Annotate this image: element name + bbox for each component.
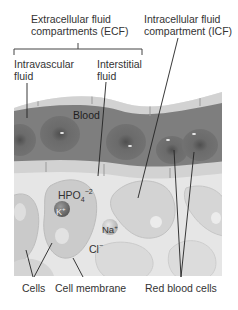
cell xyxy=(168,241,216,282)
cells-label: Cells xyxy=(22,282,45,294)
intravascular-fluid-label: Intravascular fluid xyxy=(14,58,74,82)
red-blood-cells-label: Red blood cells xyxy=(145,282,217,294)
ecf-label: Extracellular fluid compartments (ECF) xyxy=(31,13,128,37)
nucleus xyxy=(150,216,162,228)
k-ion-label: K+ xyxy=(56,203,66,218)
cell xyxy=(95,242,153,282)
nucleus xyxy=(55,228,69,244)
interstitial-fluid-label: Interstitial fluid xyxy=(97,58,142,82)
icf-label: Intracellular fluid compartment (ICF) xyxy=(144,13,232,37)
fluid-compartments-illustration xyxy=(0,0,238,310)
na-ion-label: Na+ xyxy=(102,221,118,236)
cl-ion-label: Cl− xyxy=(89,240,103,255)
cell-membrane-label: Cell membrane xyxy=(55,282,126,294)
blood-label: Blood xyxy=(73,109,100,121)
ecf-bracket xyxy=(14,43,142,55)
